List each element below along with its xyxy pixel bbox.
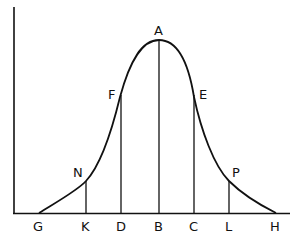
- label-L: L: [225, 219, 233, 234]
- bell-curve: [39, 40, 276, 213]
- label-H: H: [270, 219, 280, 234]
- label-F: F: [108, 87, 115, 102]
- label-C: C: [189, 219, 198, 234]
- label-G: G: [33, 219, 43, 234]
- label-N: N: [73, 165, 83, 180]
- label-P: P: [232, 165, 240, 180]
- label-A: A: [154, 23, 163, 38]
- label-D: D: [116, 219, 126, 234]
- label-K: K: [81, 219, 90, 234]
- label-B: B: [154, 219, 163, 234]
- bell-curve-diagram: A F E N P G K D B C L H: [0, 0, 306, 244]
- label-E: E: [199, 87, 207, 102]
